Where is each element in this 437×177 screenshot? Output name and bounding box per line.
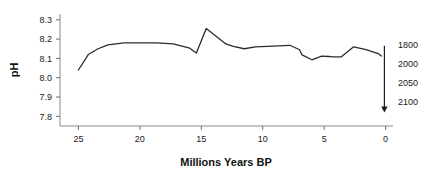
y-axis-group: 8.38.28.18.07.97.8 <box>39 14 60 126</box>
x-tick-label: 15 <box>196 134 206 144</box>
projection-year-label: 2050 <box>398 78 418 88</box>
x-tick-label: 0 <box>383 134 388 144</box>
y-tick-label: 8.2 <box>39 34 52 44</box>
y-tick-label: 8.3 <box>39 15 52 25</box>
x-tick-label: 20 <box>135 134 145 144</box>
y-axis-ticks <box>56 20 60 117</box>
x-tick-label: 5 <box>322 134 327 144</box>
ocean-ph-chart-figure: 8.38.28.18.07.97.8 2520151050 1800200020… <box>0 0 437 177</box>
x-axis-ticks <box>78 126 385 130</box>
x-axis-tick-labels: 2520151050 <box>73 134 388 144</box>
y-axis-tick-labels: 8.38.28.18.07.97.8 <box>39 15 52 122</box>
y-tick-label: 7.8 <box>39 112 52 122</box>
chart-svg: 8.38.28.18.07.97.8 2520151050 1800200020… <box>0 0 437 177</box>
projection-year-label: 2000 <box>398 59 418 69</box>
y-axis-title: pH <box>8 63 20 78</box>
projection-year-labels: 1800200020502100 <box>398 40 418 106</box>
data-series-group <box>78 28 381 70</box>
x-axis-group: 2520151050 <box>60 126 393 144</box>
projection-year-label: 1800 <box>398 40 418 50</box>
y-tick-label: 8.0 <box>39 73 52 83</box>
y-tick-label: 7.9 <box>39 92 52 102</box>
ph-series-line <box>78 28 381 70</box>
y-tick-label: 8.1 <box>39 54 52 64</box>
projection-year-label: 2100 <box>398 97 418 107</box>
arrow-head-icon <box>381 106 387 112</box>
x-axis-title: Millions Years BP <box>180 156 272 168</box>
future-projection-group <box>381 46 387 113</box>
x-tick-label: 25 <box>73 134 83 144</box>
x-tick-label: 10 <box>258 134 268 144</box>
